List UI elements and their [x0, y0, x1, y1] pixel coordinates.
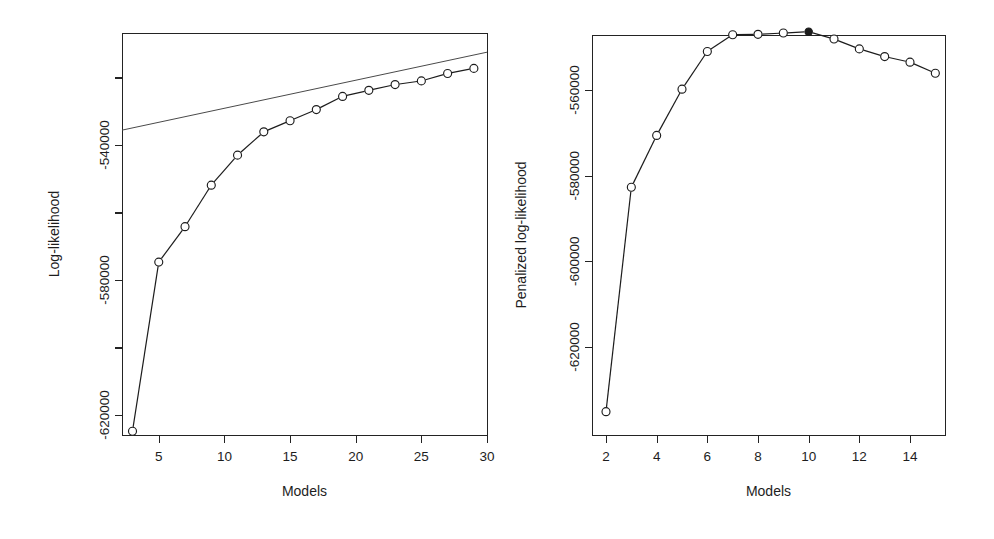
series-segment [838, 41, 855, 48]
x-axis-tick-label: 8 [754, 449, 762, 464]
series-segment [320, 98, 339, 107]
x-axis-tick-label: 20 [348, 449, 363, 464]
chart-panel-right: -620000-600000-580000-5600002468101214Mo… [497, 0, 994, 539]
y-axis-tick-label: -580000 [97, 255, 112, 305]
y-axis-tick-label: -600000 [567, 237, 582, 287]
x-axis-tick-label: 10 [801, 449, 816, 464]
x-axis-tick-label: 12 [852, 449, 867, 464]
series-segment [161, 230, 182, 259]
x-axis-title: Models [746, 483, 791, 499]
x-axis-tick-label: 5 [155, 449, 163, 464]
series-segment [399, 81, 417, 84]
series-segment [889, 58, 906, 62]
chart-panel-left: -620000-580000-54000051015202530ModelsLo… [0, 0, 497, 539]
y-axis-title: Log-likelihood [46, 191, 62, 277]
data-point-marker [729, 31, 737, 39]
data-point-marker [417, 77, 425, 85]
series-segment [914, 64, 931, 72]
data-point-marker [881, 53, 889, 61]
x-axis-tick-label: 14 [902, 449, 918, 464]
plot-frame [593, 36, 946, 436]
x-axis-tick-label: 25 [414, 449, 429, 464]
series-segment [425, 75, 443, 80]
x-axis-title: Models [282, 483, 327, 499]
series-segment [133, 266, 158, 427]
x-axis-tick-label: 2 [602, 449, 610, 464]
y-axis-tick-label: -620000 [97, 390, 112, 440]
data-point-marker [391, 81, 399, 89]
series-segment [684, 55, 705, 86]
series-segment [347, 91, 365, 95]
data-point-marker [286, 117, 294, 125]
series-segment [659, 93, 680, 132]
series-segment [711, 37, 729, 49]
series-segment [606, 192, 630, 408]
x-axis-tick-label: 15 [283, 449, 298, 464]
data-point-marker [678, 85, 686, 93]
figure-canvas: -620000-580000-54000051015202530ModelsLo… [0, 0, 994, 539]
plot-frame [123, 34, 488, 436]
data-point-marker [830, 35, 838, 43]
data-point-marker [129, 427, 137, 435]
log-likelihood-plot: -620000-580000-54000051015202530ModelsLo… [0, 0, 497, 539]
series-segment [373, 86, 391, 90]
data-point-marker [207, 181, 215, 189]
data-point-marker [155, 258, 163, 266]
series-segment [762, 33, 779, 34]
data-point-marker [181, 223, 189, 231]
data-point-marker [779, 29, 787, 37]
series-segment [268, 122, 286, 130]
x-axis-tick-label: 6 [704, 449, 712, 464]
data-point-marker [444, 69, 452, 77]
series-segment [294, 111, 312, 119]
data-point-marker [470, 64, 478, 72]
x-axis-tick-label: 30 [479, 449, 494, 464]
x-axis-tick-label: 10 [217, 449, 232, 464]
series-segment [788, 32, 805, 33]
data-point-marker [754, 30, 762, 38]
data-point-marker [855, 45, 863, 53]
series-segment [214, 158, 235, 182]
data-point-marker [703, 47, 711, 55]
data-point-marker [602, 408, 610, 416]
y-axis-tick-label: -540000 [97, 120, 112, 170]
data-point-marker [653, 131, 661, 139]
series-segment [187, 189, 209, 223]
series-segment [863, 50, 880, 55]
x-axis-tick-label: 4 [653, 449, 661, 464]
y-axis-tick-label: -560000 [567, 65, 582, 115]
data-point-marker [365, 86, 373, 94]
series-segment [452, 69, 470, 72]
series-segment [633, 139, 655, 183]
data-point-marker [931, 69, 939, 77]
y-axis-tick-label: -620000 [567, 322, 582, 372]
data-point-marker [906, 58, 914, 66]
data-point-marker [627, 183, 635, 191]
data-point-marker [260, 128, 268, 136]
reference-line [122, 52, 487, 130]
selected-data-point-marker [805, 28, 812, 35]
penalized-log-likelihood-plot: -620000-600000-580000-5600002468101214Mo… [497, 0, 994, 539]
data-point-marker [339, 92, 347, 100]
y-axis-tick-label: -580000 [567, 151, 582, 201]
data-point-marker [312, 106, 320, 114]
data-point-marker [234, 151, 242, 159]
y-axis-title: Penalized log-likelihood [513, 161, 529, 308]
series-segment [241, 135, 261, 153]
